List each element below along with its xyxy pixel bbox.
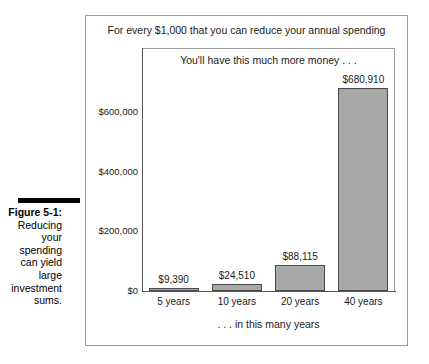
y-axis-tick-labels: $0$200,000$400,000$600,000 <box>84 0 138 364</box>
bar-value-label: $680,910 <box>318 74 408 85</box>
y-tick-label: $0 <box>84 285 138 296</box>
figure-caption-block <box>18 198 80 203</box>
figure-caption-body: Reducing your spending can yield large i… <box>11 219 62 307</box>
chart-x-axis-label: . . . in this many years <box>142 318 395 330</box>
figure-number-label: Figure 5-1: <box>8 206 62 218</box>
y-tick-label: $200,000 <box>84 225 138 236</box>
bar <box>275 265 325 291</box>
x-axis-line <box>142 291 396 292</box>
bar <box>212 284 262 291</box>
caption-rule-top <box>18 198 80 203</box>
bar-value-label: $88,115 <box>255 251 345 262</box>
bar <box>149 288 199 291</box>
figure-caption-text: Figure 5-1: Reducing your spending can y… <box>0 206 62 307</box>
x-tick-label: 40 years <box>318 296 408 307</box>
y-tick-label: $400,000 <box>84 166 138 177</box>
y-tick-label: $600,000 <box>84 106 138 117</box>
bar <box>338 88 388 291</box>
bar-value-label: $24,510 <box>192 270 282 281</box>
y-axis-line <box>142 48 143 292</box>
chart-subtitle: You'll have this much more money . . . <box>142 54 395 66</box>
